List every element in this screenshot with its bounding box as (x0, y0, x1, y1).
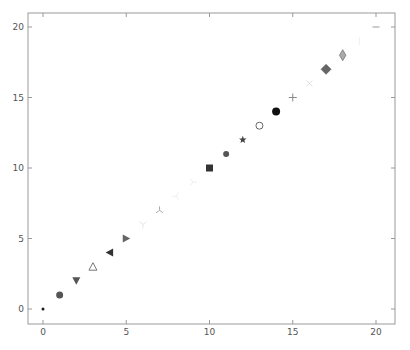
y-tick-label: 5 (18, 234, 24, 244)
octagon-marker-icon (272, 108, 280, 116)
x-tick-label: 5 (123, 327, 129, 337)
scatter-chart: 05101520 05101520 (0, 0, 410, 350)
y-tick-label: 0 (18, 304, 24, 314)
y-tick-label: 10 (13, 163, 25, 173)
circle-marker-icon (56, 291, 63, 298)
circle_open-marker-icon (256, 122, 263, 129)
square-marker-icon (206, 165, 213, 172)
hexagon-marker-icon (223, 151, 229, 157)
x-tick-label: 0 (40, 327, 46, 337)
x-tick-label: 15 (287, 327, 298, 337)
point-marker-icon (42, 308, 45, 311)
x-tick-label: 20 (370, 327, 382, 337)
x-tick-label: 10 (204, 327, 216, 337)
y-tick-label: 15 (13, 93, 24, 103)
y-tick-label: 20 (13, 22, 25, 32)
